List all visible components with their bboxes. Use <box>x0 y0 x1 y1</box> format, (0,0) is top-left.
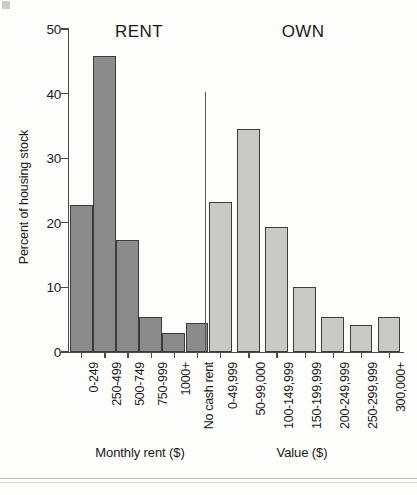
y-tick-mark-40 <box>61 93 69 94</box>
y-tick-mark-10 <box>61 287 69 288</box>
x-tick-label-rent-5: No cash rent <box>202 362 216 429</box>
y-axis-title: Percent of housing stock <box>17 77 31 317</box>
y-tick-label-0: 0 <box>9 345 61 360</box>
x-tick-mark-own-3 <box>305 353 306 358</box>
bar-own-1 <box>237 129 260 352</box>
x-tick-mark-own-4 <box>333 353 334 358</box>
x-tick-mark-rent-4 <box>174 353 175 358</box>
x-tick-label-rent-3: 750-999 <box>156 362 170 406</box>
page-rule-top <box>0 478 417 479</box>
bar-own-6 <box>378 317 401 352</box>
x-tick-mark-own-2 <box>276 353 277 358</box>
x-axis-line <box>68 352 404 353</box>
group-heading-own: OWN <box>248 22 358 42</box>
x-axis-caption-own: Value ($) <box>232 445 372 460</box>
bar-rent-2 <box>116 240 139 352</box>
x-tick-mark-rent-5 <box>197 353 198 358</box>
x-tick-mark-rent-1 <box>104 353 105 358</box>
housing-stock-bar-chart: 01020304050 Percent of housing stock REN… <box>0 0 417 495</box>
bar-rent-1 <box>93 56 116 352</box>
x-tick-mark-own-5 <box>361 353 362 358</box>
x-tick-mark-own-6 <box>389 353 390 358</box>
group-heading-rent: RENT <box>84 22 194 42</box>
x-tick-label-rent-4: 1000+ <box>179 362 193 396</box>
x-tick-label-rent-2: 500-749 <box>133 362 147 406</box>
bar-rent-3 <box>139 317 162 352</box>
bar-own-0 <box>209 202 232 352</box>
x-tick-label-own-2: 100-149,999 <box>282 362 296 429</box>
x-tick-label-own-1: 50-99,000 <box>254 362 268 416</box>
bar-own-4 <box>321 317 344 352</box>
y-tick-mark-50 <box>61 28 69 29</box>
y-tick-mark-30 <box>61 158 69 159</box>
bar-own-3 <box>293 287 316 352</box>
bar-own-5 <box>350 325 373 352</box>
x-tick-label-rent-1: 250-499 <box>110 362 124 406</box>
y-tick-mark-20 <box>61 222 69 223</box>
bar-rent-0 <box>70 205 93 352</box>
y-tick-label-50: 50 <box>9 22 61 37</box>
x-tick-mark-rent-3 <box>151 353 152 358</box>
x-tick-mark-rent-0 <box>81 353 82 358</box>
x-tick-mark-rent-2 <box>127 353 128 358</box>
x-tick-label-own-5: 250-299,999 <box>366 362 380 429</box>
x-axis-caption-rent: Monthly rent ($) <box>70 445 210 460</box>
x-tick-label-own-0: 0-49,999 <box>226 362 240 409</box>
x-tick-mark-own-1 <box>248 353 249 358</box>
x-tick-label-own-3: 150-199,999 <box>310 362 324 429</box>
x-tick-label-own-6: 300,000+ <box>394 362 408 412</box>
scan-corner-mark <box>2 1 10 9</box>
x-tick-label-rent-0: 0-249 <box>87 362 101 392</box>
page-rule-bottom <box>0 482 417 483</box>
bar-rent-4 <box>162 333 185 352</box>
x-tick-mark-own-0 <box>220 353 221 358</box>
group-divider-line <box>205 92 206 353</box>
bar-own-2 <box>265 227 288 352</box>
x-tick-label-own-4: 200-249,999 <box>338 362 352 429</box>
